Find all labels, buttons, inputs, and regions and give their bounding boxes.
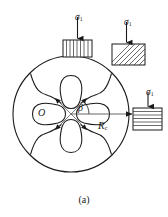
figure-caption: (a) <box>0 194 168 205</box>
radius-label: Rc <box>98 121 107 132</box>
lobe-south <box>60 120 82 153</box>
center-point-label: O <box>38 108 45 118</box>
figure-container: O β Rc σ1 σ1 σ1 (a) <box>0 0 168 217</box>
stress-label-right: σ1 <box>146 88 154 98</box>
stress-subscript: 1 <box>129 21 132 27</box>
stress-label-top: σ1 <box>75 13 83 23</box>
load-block-upper-right <box>108 22 160 66</box>
stress-subscript: 1 <box>151 91 154 97</box>
cross-section-diagram <box>0 0 168 217</box>
stress-subscript: 1 <box>80 16 83 22</box>
angle-beta-label: β <box>78 103 83 113</box>
radius-subscript: c <box>104 124 107 131</box>
load-block-top <box>63 17 92 57</box>
stress-label-upper-right: σ1 <box>124 18 132 28</box>
